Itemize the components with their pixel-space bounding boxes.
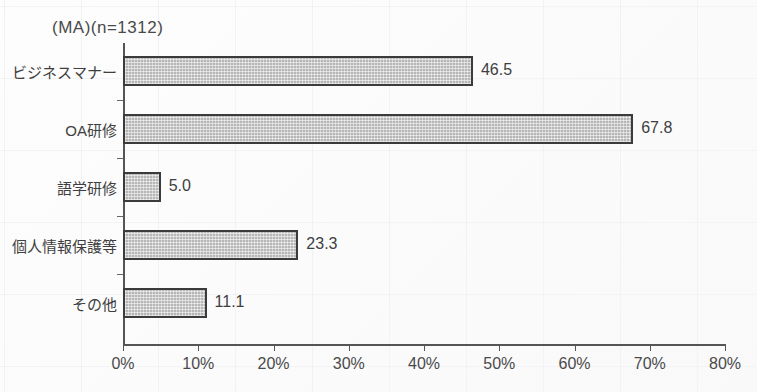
x-axis-tick xyxy=(274,344,275,351)
category-label: その他 xyxy=(0,293,117,314)
chart-page: (MA)(n=1312) 0%10%20%30%40%50%60%70%80% … xyxy=(0,0,757,392)
bar xyxy=(123,172,161,202)
x-axis-tick-label: 80% xyxy=(709,355,741,373)
x-axis-tick-label: 30% xyxy=(333,355,365,373)
bar-value-label: 67.8 xyxy=(641,119,672,137)
x-axis-tick-label: 70% xyxy=(634,355,666,373)
x-axis-tick xyxy=(198,344,199,351)
x-axis-tick-label: 0% xyxy=(111,355,134,373)
bar xyxy=(123,230,298,260)
chart-title: (MA)(n=1312) xyxy=(52,18,163,38)
bar-value-label: 11.1 xyxy=(215,293,245,311)
bar-value-label: 23.3 xyxy=(306,235,337,253)
x-axis-tick-label: 50% xyxy=(483,355,515,373)
x-axis-tick-label: 60% xyxy=(558,355,590,373)
bar-value-label: 5.0 xyxy=(169,177,191,195)
category-label: ビジネスマナー xyxy=(0,61,117,82)
y-axis-minor-tick xyxy=(117,274,123,275)
y-axis-minor-tick xyxy=(117,158,123,159)
plot-area: 0%10%20%30%40%50%60%70%80% 46.567.85.023… xyxy=(123,43,725,346)
bar xyxy=(123,114,633,144)
x-axis-tick xyxy=(349,344,350,351)
x-axis-tick-label: 40% xyxy=(408,355,440,373)
x-axis-tick xyxy=(725,344,726,351)
bar xyxy=(123,288,207,318)
x-axis-tick xyxy=(123,344,124,351)
x-axis-tick-label: 20% xyxy=(257,355,289,373)
y-axis-minor-tick xyxy=(117,216,123,217)
x-axis-tick xyxy=(424,344,425,351)
category-label: OA研修 xyxy=(0,119,117,140)
x-axis-tick xyxy=(650,344,651,351)
x-axis-tick xyxy=(499,344,500,351)
bar xyxy=(123,56,473,86)
category-label: 個人情報保護等 xyxy=(0,235,117,256)
x-axis-tick xyxy=(575,344,576,351)
category-label: 語学研修 xyxy=(0,177,117,198)
bar-value-label: 46.5 xyxy=(481,61,512,79)
x-axis-tick-label: 10% xyxy=(182,355,214,373)
y-axis-minor-tick xyxy=(117,100,123,101)
